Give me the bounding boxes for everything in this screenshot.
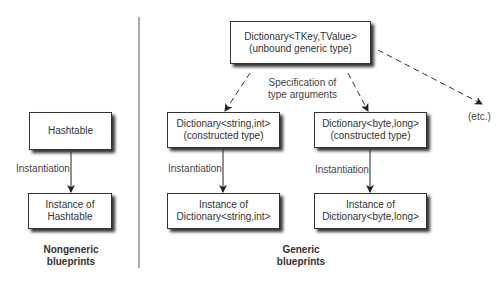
constructed-byte-long-box: Dictionary<byte,long> (constructed type)	[314, 112, 427, 148]
hashtable-instance-line1: Instance of	[46, 199, 95, 211]
hashtable-box-text: Hashtable	[48, 125, 93, 137]
constructed-right-line1: Dictionary<byte,long>	[322, 118, 419, 130]
generic-caption-line2: blueprints	[269, 256, 333, 268]
generic-caption-line1: Generic	[269, 244, 333, 256]
instance-right-line2: Dictionary<byte,long>	[322, 211, 419, 223]
constructed-string-int-box: Dictionary<string,int> (constructed type…	[167, 112, 280, 148]
arrow-spec-left	[225, 73, 250, 111]
unbound-generic-box: Dictionary<TKey,TValue> (unbound generic…	[230, 21, 371, 64]
unbound-line2: (unbound generic type)	[249, 43, 352, 55]
hashtable-box: Hashtable	[29, 112, 112, 150]
arrow-spec-etc	[378, 50, 482, 104]
generic-caption: Generic blueprints	[269, 244, 333, 268]
constructed-right-line2: (constructed type)	[330, 130, 410, 142]
arrow-spec-right	[348, 73, 368, 111]
unbound-line1: Dictionary<TKey,TValue>	[244, 31, 356, 43]
left-instantiation-label: Instantiation	[168, 163, 222, 175]
constructed-left-line1: Dictionary<string,int>	[177, 118, 271, 130]
nongeneric-caption-line2: blueprints	[35, 256, 107, 268]
instance-string-int-box: Instance of Dictionary<string,int>	[167, 193, 280, 229]
hashtable-instance-line2: Hashtable	[47, 211, 92, 223]
spec-label-line1: Specification of	[268, 77, 337, 89]
instance-right-line1: Instance of	[346, 199, 395, 211]
instance-byte-long-box: Instance of Dictionary<byte,long>	[314, 193, 427, 229]
nongeneric-caption-line1: Nongeneric	[35, 244, 107, 256]
constructed-left-line2: (constructed type)	[183, 130, 263, 142]
hashtable-instance-box: Instance of Hashtable	[28, 193, 112, 229]
etc-label: (etc.)	[468, 111, 491, 123]
nongeneric-caption: Nongeneric blueprints	[35, 244, 107, 268]
right-instantiation-label: Instantiation	[315, 164, 369, 176]
spec-label-line2: type arguments	[268, 89, 337, 101]
spec-label: Specification of type arguments	[268, 77, 337, 101]
hashtable-instantiation-label: Instantiation	[16, 163, 70, 175]
instance-left-line2: Dictionary<string,int>	[177, 211, 271, 223]
instance-left-line1: Instance of	[199, 199, 248, 211]
